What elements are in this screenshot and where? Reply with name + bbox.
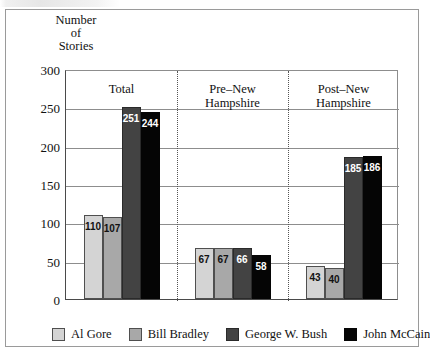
bar-value-label-1-0: 67 xyxy=(196,255,213,265)
group-header-1: Pre–NewHampshire xyxy=(177,83,288,110)
bar-0-3: 244 xyxy=(141,112,160,299)
bar-0-1: 107 xyxy=(103,217,122,299)
legend-label-2: George W. Bush xyxy=(245,328,327,341)
bar-value-label-2-1: 40 xyxy=(326,275,343,285)
bar-value-label-2-3: 186 xyxy=(364,163,381,173)
group-header-1-line-1: Hampshire xyxy=(177,97,288,111)
bar-0-2: 251 xyxy=(122,107,141,299)
group-header-1-line-0: Pre–New xyxy=(177,83,288,97)
bar-0-0: 110 xyxy=(84,215,103,299)
gridline-200 xyxy=(66,148,399,149)
bar-2-3: 186 xyxy=(363,156,382,299)
bar-2-2: 185 xyxy=(344,157,363,299)
legend-item-2: George W. Bush xyxy=(226,328,327,341)
group-header-2: Post–NewHampshire xyxy=(288,83,399,110)
group-header-2-line-1: Hampshire xyxy=(288,97,399,111)
bar-1-1: 67 xyxy=(214,248,233,299)
bar-1-0: 67 xyxy=(195,248,214,299)
y-tick-label-0: 0 xyxy=(16,294,60,307)
bar-value-label-0-3: 244 xyxy=(142,119,159,129)
y-axis-tick-labels: 050100150200250300 xyxy=(12,0,60,355)
bar-2-0: 43 xyxy=(306,266,325,299)
legend-label-0: Al Gore xyxy=(71,328,112,341)
y-tick-label-100: 100 xyxy=(16,217,60,230)
y-tick-label-250: 250 xyxy=(16,102,60,115)
bar-value-label-0-1: 107 xyxy=(104,224,121,234)
chart-legend: Al GoreBill BradleyGeorge W. BushJohn Mc… xyxy=(52,325,402,343)
top-edge-artifact xyxy=(0,0,426,7)
legend-swatch-2 xyxy=(226,328,239,341)
bar-value-label-1-1: 67 xyxy=(215,255,232,265)
bar-value-label-0-2: 251 xyxy=(123,114,140,124)
y-tick-label-300: 300 xyxy=(16,64,60,77)
bar-value-label-2-2: 185 xyxy=(345,164,362,174)
bar-1-2: 66 xyxy=(233,248,252,299)
y-tick-label-200: 200 xyxy=(16,141,60,154)
group-header-0: Total xyxy=(66,83,177,97)
y-tick-label-50: 50 xyxy=(16,256,60,269)
bar-value-label-1-2: 66 xyxy=(234,255,251,265)
bar-value-label-2-0: 43 xyxy=(307,273,324,283)
legend-label-3: John McCain xyxy=(363,328,430,341)
y-tick-label-150: 150 xyxy=(16,179,60,192)
bar-value-label-0-0: 110 xyxy=(85,222,102,232)
legend-swatch-3 xyxy=(344,328,357,341)
legend-item-1: Bill Bradley xyxy=(129,328,209,341)
plot-area: TotalPre–NewHampshirePost–NewHampshire 1… xyxy=(65,70,398,300)
legend-swatch-1 xyxy=(129,328,142,341)
legend-swatch-0 xyxy=(52,328,65,341)
bar-1-3: 58 xyxy=(252,255,271,299)
group-header-2-line-0: Post–New xyxy=(288,83,399,97)
group-header-0-line-0: Total xyxy=(66,83,177,97)
bar-value-label-1-3: 58 xyxy=(253,262,270,272)
bar-2-1: 40 xyxy=(325,268,344,299)
legend-item-3: John McCain xyxy=(344,328,430,341)
legend-label-1: Bill Bradley xyxy=(148,328,209,341)
legend-item-0: Al Gore xyxy=(52,328,112,341)
